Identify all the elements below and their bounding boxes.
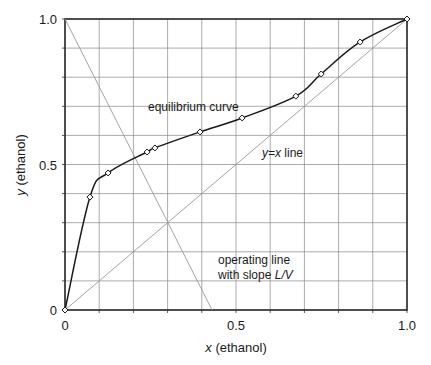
diamond-marker (239, 115, 245, 121)
x-tick-0: 0 (61, 318, 68, 333)
chart: 1.0 0.5 0 0 0.5 1.0 x (ethanol) y (ethan… (0, 0, 431, 365)
operating-line-label-2: with slope L/V (217, 268, 294, 282)
y-tick-0: 0 (50, 303, 57, 318)
y-tick-1: 1.0 (39, 12, 57, 27)
operating-line-label-1: operating line (218, 253, 290, 267)
x-tick-05: 0.5 (227, 318, 245, 333)
diamond-marker (197, 129, 203, 135)
diamond-marker (87, 194, 93, 200)
y-axis-label: y (ethanol) (13, 134, 28, 196)
x-tick-1: 1.0 (398, 318, 416, 333)
diamond-marker (152, 145, 158, 151)
diamond-marker (144, 149, 150, 155)
x-axis-label: x (ethanol) (204, 340, 266, 355)
equilibrium-curve-label: equilibrium curve (148, 100, 239, 114)
yx-line-label: y=x line (261, 146, 303, 160)
y-tick-05: 0.5 (39, 158, 57, 173)
